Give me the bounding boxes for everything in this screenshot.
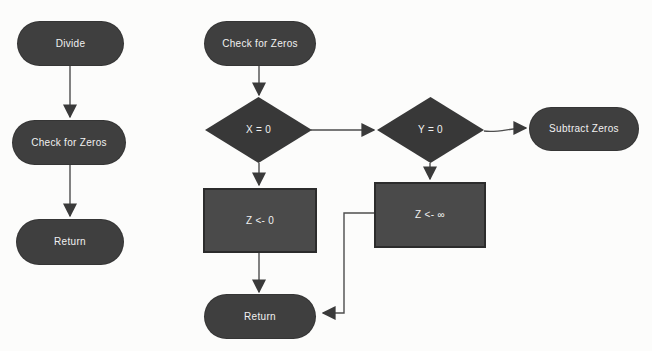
- node-return-left-label: Return: [54, 237, 86, 247]
- node-assign-zero: Z <- 0: [203, 188, 317, 253]
- node-check-for-zeros-left: Check for Zeros: [13, 121, 125, 164]
- node-assign-infinity-label: Z <- ∞: [415, 210, 445, 220]
- node-return-main: Return: [205, 295, 315, 338]
- node-check-for-zeros-main: Check for Zeros: [205, 22, 315, 65]
- node-return-left: Return: [17, 220, 123, 264]
- node-return-main-label: Return: [244, 312, 276, 322]
- node-decision-y-label: Y = 0: [418, 125, 443, 135]
- node-assign-infinity: Z <- ∞: [374, 182, 486, 248]
- node-assign-zero-label: Z <- 0: [246, 216, 274, 226]
- node-check-for-zeros-main-label: Check for Zeros: [222, 39, 298, 49]
- node-subtract-zeros-label: Subtract Zeros: [549, 124, 619, 134]
- node-subtract-zeros: Subtract Zeros: [530, 108, 638, 150]
- node-divide: Divide: [18, 22, 123, 65]
- connector-decision-y-to-subtract: [484, 128, 526, 131]
- node-check-for-zeros-left-label: Check for Zeros: [31, 138, 107, 148]
- node-decision-x-label: X = 0: [246, 125, 271, 135]
- node-divide-label: Divide: [56, 39, 86, 49]
- connector-assign-infinity-to-return: [323, 213, 374, 313]
- flowchart-canvas: Divide Check for Zeros Return Check for …: [0, 0, 652, 351]
